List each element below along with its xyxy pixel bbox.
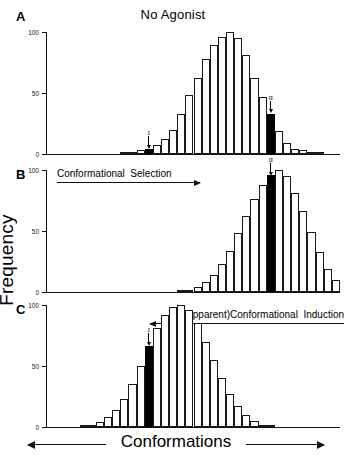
x-axis-caption: Conformations [26,432,326,460]
histogram-bar [299,150,307,154]
x-axis-arrow-right-icon [246,444,324,445]
histogram-bar [169,307,177,427]
histogram-bar [137,150,145,154]
histogram-bar [210,360,218,427]
histogram-bar [226,251,234,292]
y-tick-label-c-50: 50 [32,363,39,370]
histogram-bar [153,145,161,154]
marker-label: I [143,129,155,136]
histogram-bar [218,264,226,292]
histogram-bar [267,425,275,427]
marker-label: I [143,326,155,333]
x-axis-arrow-left-icon [28,444,106,445]
histogram-bar [194,287,202,292]
y-tick-label-c-100: 100 [28,302,39,309]
panel-c: C (Apparent)Conformational Induction 050… [0,300,346,430]
histogram-bar [267,175,275,292]
histogram-bar [307,232,315,292]
histogram-bar [177,114,185,154]
histogram-bar [250,78,258,154]
bars-c [47,305,340,427]
marker-i-a: I [143,129,155,145]
histogram-bar [242,216,250,292]
figure-conformational-distributions: A No Agonist 050100III B Conformational … [0,0,346,464]
marker-arrow-down-icon [270,163,271,172]
histogram-bar [185,290,193,292]
histogram-bar [185,95,193,154]
histogram-bar [226,394,234,427]
histogram-bar [242,55,250,154]
histogram-bar [128,152,136,154]
histogram-bar [145,149,153,154]
panel-a-title: No Agonist [0,7,346,22]
histogram-bar [250,421,258,427]
histogram-bar [332,280,340,292]
y-tick-b-50: 50 [42,231,46,232]
histogram-bar [185,310,193,427]
histogram-bar [275,170,283,292]
histogram-bar [202,59,210,154]
histogram-bar [145,346,153,427]
histogram-bar [194,78,202,154]
y-axis-label: Frequency [0,185,18,335]
histogram-bar [283,176,291,292]
y-tick-label-a-0: 0 [35,151,39,158]
histogram-bar [250,199,258,292]
plot-area-a: 050100III [46,32,340,154]
histogram-bar [202,342,210,427]
marker-ii-a: II [265,94,277,110]
marker-arrow-down-icon [270,101,271,110]
histogram-bar [291,193,299,292]
histogram-bar [316,252,324,292]
histogram-bar [234,233,242,292]
y-tick-label-c-0: 0 [35,424,39,431]
y-tick-a-100: 100 [42,32,46,33]
panel-b: B Conformational Selection 050100II [0,165,346,300]
y-tick-b-100: 100 [42,170,46,171]
marker-arrow-down-icon [148,136,149,145]
histogram-bar [120,399,128,427]
histogram-bar [283,143,291,154]
histogram-bar [324,269,332,292]
histogram-bar [88,425,96,427]
y-tick-label-a-100: 100 [28,29,39,36]
y-tick-b-0: 0 [42,292,46,293]
histogram-bar [177,305,185,427]
marker-ii-b: II [265,156,277,172]
histogram-bar [316,152,324,154]
y-tick-label-a-50: 50 [32,90,39,97]
histogram-bar [177,290,185,292]
marker-label: II [265,156,277,163]
histogram-bar [80,425,88,427]
histogram-bar [120,152,128,154]
histogram-bar [259,425,267,427]
y-tick-label-b-0: 0 [35,289,39,296]
x-axis-a [46,154,340,155]
x-axis-label: Conformations [26,432,326,452]
histogram-bar [96,422,104,427]
y-tick-c-50: 50 [42,366,46,367]
y-tick-a-50: 50 [42,93,46,94]
histogram-bar [226,32,234,154]
panel-b-letter: B [16,168,25,181]
histogram-bar [234,406,242,427]
marker-arrow-down-icon [148,333,149,342]
x-axis-b [46,292,340,293]
histogram-bar [234,38,242,154]
histogram-bar [242,415,250,427]
histogram-bar [259,185,267,292]
histogram-bar [194,323,202,427]
histogram-bar [202,282,210,292]
panel-a: A No Agonist 050100III [0,0,346,165]
histogram-bar [218,378,226,427]
histogram-bar [161,315,169,427]
histogram-bar [267,114,275,154]
y-tick-label-b-100: 100 [28,167,39,174]
histogram-bar [104,417,112,427]
plot-area-c: 050100I [46,305,340,427]
histogram-bar [128,384,136,427]
x-axis-c [46,427,340,428]
histogram-bar [153,328,161,427]
y-tick-a-0: 0 [42,154,46,155]
histogram-bar [210,275,218,292]
